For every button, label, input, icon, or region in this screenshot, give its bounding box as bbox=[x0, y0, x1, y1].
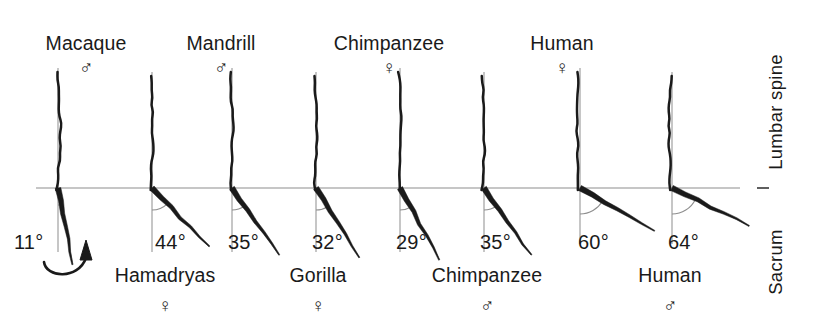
angle-label-macaque-male: 11° bbox=[14, 232, 43, 252]
taxon-name-gorilla-female: Gorilla bbox=[289, 266, 346, 286]
specimen-macaque-male bbox=[55, 68, 73, 265]
specimen-hamadryas-female bbox=[150, 72, 210, 252]
sex-symbol-male: ♂ bbox=[663, 296, 677, 315]
side-label-sacrum: Sacrum bbox=[767, 229, 786, 295]
taxon-name-hamadryas-female: Hamadryas bbox=[115, 266, 216, 286]
curved-arrow-head bbox=[80, 240, 92, 260]
specimen-human-male bbox=[669, 72, 750, 244]
sex-symbol-female: ♀ bbox=[158, 296, 172, 315]
lumbar-spine-curve bbox=[151, 76, 154, 190]
sacrum-outline bbox=[579, 186, 655, 232]
angle-arc bbox=[672, 199, 695, 214]
angle-label-human-male: 64° bbox=[668, 232, 699, 252]
sex-symbol-male: ♂ bbox=[214, 58, 228, 77]
angle-label-hamadryas-female: 44° bbox=[155, 232, 186, 252]
lumbar-spine-curve bbox=[482, 76, 485, 190]
lumbar-spine-curve bbox=[669, 76, 672, 190]
lumbar-spine-curve bbox=[398, 72, 401, 190]
specimen-mandrill-male bbox=[230, 68, 280, 255]
angle-label-gorilla-female: 32° bbox=[312, 232, 343, 252]
specimen-human-female bbox=[577, 68, 655, 244]
sex-symbol-female: ♀ bbox=[555, 58, 569, 77]
sex-symbol-female: ♀ bbox=[311, 296, 325, 315]
angle-label-chimpanzee-female: 29° bbox=[396, 232, 427, 252]
angle-arc bbox=[580, 201, 603, 214]
angle-label-human-female: 60° bbox=[578, 232, 609, 252]
sex-symbol-male: ♂ bbox=[480, 296, 494, 315]
side-label-lumbar-spine: Lumbar spine bbox=[767, 54, 786, 170]
taxon-name-chimpanzee-female: Chimpanzee bbox=[334, 34, 444, 54]
angle-arc bbox=[152, 204, 167, 210]
angle-label-mandrill-male: 35° bbox=[228, 232, 259, 252]
taxon-name-mandrill-male: Mandrill bbox=[186, 34, 255, 54]
taxon-name-human-male: Human bbox=[638, 266, 701, 286]
lumbar-spine-curve bbox=[56, 72, 61, 190]
angle-label-chimpanzee-male: 35° bbox=[480, 232, 511, 252]
sacrum-outline bbox=[671, 185, 750, 226]
specimen-chimpanzee-male bbox=[482, 72, 533, 255]
taxon-name-macaque-male: Macaque bbox=[46, 34, 127, 54]
comparative-spine-figure: Macaque♂11°Hamadryas♀44°Mandrill♂35°Gori… bbox=[0, 0, 814, 335]
taxon-name-chimpanzee-male: Chimpanzee bbox=[432, 266, 542, 286]
sex-symbol-male: ♂ bbox=[79, 58, 93, 77]
lumbar-spine-curve bbox=[577, 72, 579, 190]
sex-symbol-female: ♀ bbox=[382, 58, 396, 77]
taxon-name-human-female: Human bbox=[530, 34, 593, 54]
